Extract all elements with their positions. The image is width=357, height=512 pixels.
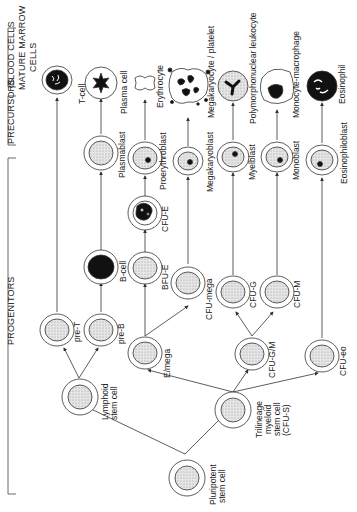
label-cfu-gm: CFU-G/M bbox=[267, 342, 277, 378]
megakaryoblast-cell bbox=[173, 147, 203, 175]
section-label-mature-marrow-cells: CELLS bbox=[28, 42, 38, 72]
label-trilineage-4: (CFU-S) bbox=[281, 404, 291, 436]
trilineage-myeloid-stem-cell bbox=[215, 392, 251, 428]
label-cfu-m: CFU-M bbox=[292, 281, 302, 308]
label-cfu-mega: CFU-mega bbox=[204, 278, 214, 320]
eosinophil bbox=[307, 71, 337, 101]
label-pre-t: pre-T bbox=[72, 322, 82, 342]
plasma-cell bbox=[85, 67, 117, 99]
label-myelblast: Myelblast bbox=[247, 143, 257, 180]
cfu-g-cell bbox=[216, 276, 250, 308]
section-label-progenitors: PROGENITORS bbox=[6, 276, 16, 345]
proerythroblast-cell bbox=[128, 142, 162, 174]
progenitor-cells bbox=[40, 196, 339, 496]
section-label-precursors: PRECURSORS bbox=[6, 78, 16, 144]
label-pre-b: pre-B bbox=[116, 323, 126, 344]
pre-t-cell bbox=[40, 314, 74, 346]
myelblast-cell bbox=[217, 142, 249, 172]
cfu-e-cell bbox=[128, 196, 162, 230]
label-megakaryoblast: Megakaryoblast bbox=[205, 131, 215, 192]
monocyte-macrophage bbox=[260, 69, 293, 103]
eosinophiloblast-cell bbox=[306, 145, 338, 175]
label-t-cell: T-cell bbox=[77, 84, 87, 104]
cfu-gm-cell bbox=[235, 338, 269, 370]
label-monoblast: Monoblast bbox=[291, 140, 301, 180]
label-eosinophil: Eosinophil bbox=[337, 65, 347, 104]
label-b-cell: B-cell bbox=[118, 261, 128, 282]
label-pluripotent-2: stem cell bbox=[217, 469, 227, 503]
label-polymorph: Polymorphonuclear leukocyte bbox=[248, 12, 258, 124]
e-mega-cell bbox=[128, 337, 162, 369]
label-e-mega: E/mega bbox=[162, 348, 172, 378]
megakaryocyte bbox=[168, 68, 210, 105]
label-eosinophiloblast: Eosinophiloblast bbox=[339, 121, 349, 184]
pre-b-cell bbox=[84, 314, 118, 346]
cfu-eo-cell bbox=[305, 340, 339, 372]
b-cell bbox=[84, 250, 118, 284]
lymphoid-stem-cell bbox=[62, 379, 98, 415]
label-proerythroblast: Proerythroblast bbox=[158, 132, 168, 190]
label-plasma-cell: Plasma cell bbox=[119, 70, 129, 114]
section-label-mature-marrow: MATURE MARROW bbox=[17, 5, 27, 90]
label-monocyte: Monocyte-macrophage bbox=[291, 31, 301, 118]
label-cfu-g: CFU-G bbox=[248, 281, 258, 308]
label-bfu-e: BFU-E bbox=[160, 264, 170, 290]
cfu-m-cell bbox=[260, 276, 294, 308]
label-lymphoid-2: stem cell bbox=[109, 386, 119, 420]
erythrocyte bbox=[135, 76, 155, 90]
bfu-e-cell bbox=[128, 252, 162, 284]
section-label-blood-cells: BLOOD CELLS bbox=[6, 21, 16, 86]
monoblast-cell bbox=[261, 142, 293, 172]
hematopoiesis-diagram: PROGENITORS PRECURSORS BLOOD CELLS MATUR… bbox=[0, 0, 357, 512]
label-cfu-eo: CFU-eo bbox=[338, 346, 348, 376]
label-cfu-e: CFU-E bbox=[160, 206, 170, 232]
label-plasmablast: Plasmablast bbox=[117, 131, 127, 178]
pluripotent-stem-cell bbox=[169, 460, 205, 496]
plasmablast-cell bbox=[84, 136, 118, 170]
polymorphonuclear-leukocyte bbox=[218, 71, 248, 101]
label-megakaryocyte: Megakaryocyte / platelet bbox=[206, 25, 216, 118]
t-cell bbox=[42, 66, 72, 94]
cfu-mega-cell bbox=[171, 267, 205, 299]
label-erythrocyte: Erythrocyte bbox=[155, 65, 165, 108]
